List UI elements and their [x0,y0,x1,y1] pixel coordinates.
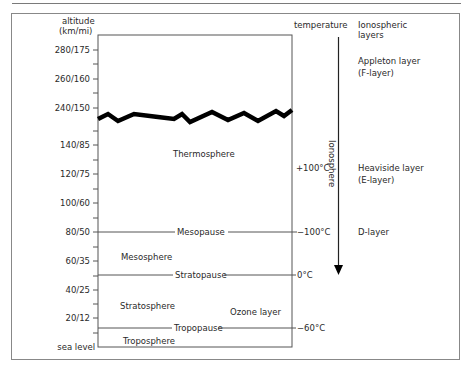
altitude-units: (km/mi) [59,26,92,36]
temp-stratopause: 0°C [297,270,313,280]
mesopause-label: Mesopause [177,227,225,237]
e-layer-label: (E-layer) [358,175,394,185]
appleton-layer-label: Appleton layer [358,56,420,66]
arrow-down-icon [334,265,343,275]
stratosphere-label: Stratosphere [120,301,175,311]
tick-label: 260/160 [30,74,90,84]
f-layer-label: (F-layer) [358,68,394,78]
tick-label: 240/150 [30,103,90,113]
troposphere-label: Troposphere [123,336,175,346]
altitude-label: altitude [62,16,95,26]
tick-label: 100/60 [30,198,90,208]
d-layer-label: D-layer [358,227,389,237]
stratopause-label: Stratopause [175,270,227,280]
tick-label: 60/35 [30,256,90,266]
ozone-layer-label: Ozone layer [230,307,281,317]
ionospheric-header: Ionospheric [358,20,407,30]
tick-label: 40/25 [30,285,90,295]
thermosphere-label: Thermosphere [173,149,235,159]
temperature-header: temperature [294,20,347,30]
ionospheric-header-2: layers [358,30,384,40]
tick-label: 140/85 [30,140,90,150]
scale-break-line [98,110,292,122]
tick-label: 280/175 [30,45,90,55]
tropopause-label: Tropopause [174,323,223,333]
mesosphere-label: Mesosphere [121,252,172,262]
heaviside-layer-label: Heaviside layer [358,163,424,173]
ionosphere-label: Ionosphere [327,140,337,187]
tick-label: sea level [30,342,95,352]
tick-label: 20/12 [30,313,90,323]
tick-label: 120/75 [30,169,90,179]
temp-thermosphere: +100°C [296,163,330,173]
temp-tropopause: −60°C [297,323,325,333]
altitude-ticks [93,50,98,333]
tick-label: 80/50 [30,227,90,237]
temp-mesopause: −100°C [297,227,331,237]
